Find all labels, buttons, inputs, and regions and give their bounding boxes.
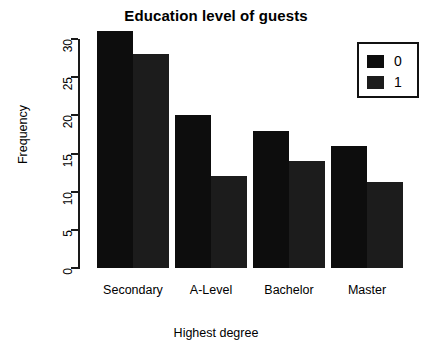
bar xyxy=(175,115,211,268)
bar xyxy=(253,131,289,268)
legend: 01 xyxy=(357,42,419,98)
y-axis-line xyxy=(78,39,80,269)
legend-label: 1 xyxy=(394,75,402,89)
chart-title: Education level of guests xyxy=(0,7,432,25)
y-axis-tick-label: 20 xyxy=(62,115,74,128)
y-axis-tick-label: 10 xyxy=(62,192,74,205)
y-axis-tick-label: 0 xyxy=(62,268,74,275)
bar xyxy=(211,176,247,268)
legend-swatch-icon xyxy=(367,55,384,68)
bar-chart: Education level of guests 051015202530 F… xyxy=(0,0,432,355)
x-axis-title: Highest degree xyxy=(0,326,432,340)
legend-item: 0 xyxy=(367,52,402,70)
legend-label: 0 xyxy=(394,54,402,68)
y-axis-title: Frequency xyxy=(17,75,30,195)
bar xyxy=(367,182,403,268)
bar xyxy=(97,31,133,268)
y-axis-tick-label: 25 xyxy=(62,77,74,90)
y-axis-tick-label: 15 xyxy=(62,154,74,167)
bar xyxy=(133,54,169,268)
bar xyxy=(331,146,367,268)
x-axis-tick-label: Master xyxy=(317,283,417,297)
legend-swatch-icon xyxy=(367,76,384,89)
y-axis-tick-label: 5 xyxy=(62,230,74,237)
y-axis-tick-label: 30 xyxy=(62,39,74,52)
legend-item: 1 xyxy=(367,73,402,91)
bar xyxy=(289,161,325,268)
